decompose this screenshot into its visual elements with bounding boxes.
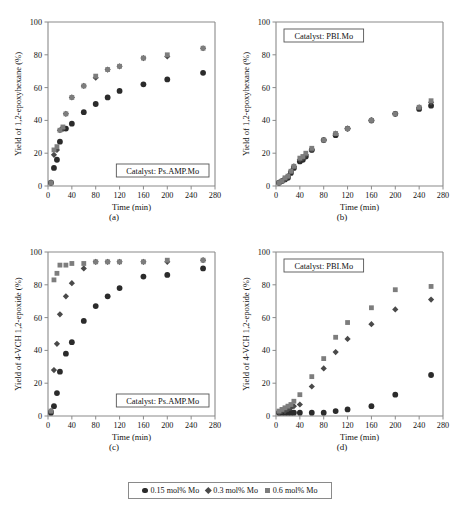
panel-label-c: (c) [0, 442, 228, 452]
svg-text:Time (min): Time (min) [340, 202, 379, 212]
data-point [117, 64, 122, 69]
data-point [333, 408, 339, 414]
chart-panel-a: 04080120160200240280020406080100Time (mi… [0, 0, 228, 230]
figure-legend: 0.15 mol% Mo 0.3 mol% Mo 0.6 mol% Mo [128, 482, 332, 499]
data-point [93, 74, 98, 79]
svg-text:Catalyst: Ps.AMP.Mo: Catalyst: Ps.AMP.Mo [126, 167, 199, 176]
svg-text:Yield of 1,2-epoxyhexane (%): Yield of 1,2-epoxyhexane (%) [13, 52, 23, 156]
svg-text:40: 40 [68, 421, 76, 430]
plot-svg-d: 04080120160200240280020406080100Time (mi… [228, 230, 456, 460]
chart-panel-c: 04080120160200240280020406080100Time (mi… [0, 230, 228, 460]
svg-text:100: 100 [30, 18, 42, 27]
svg-text:240: 240 [185, 421, 197, 430]
legend-label-2: 0.6 mol% Mo [273, 486, 318, 495]
legend-item-2: 0.6 mol% Mo [265, 486, 317, 495]
svg-text:240: 240 [185, 191, 197, 200]
data-point [201, 258, 206, 263]
data-point [369, 403, 375, 409]
data-point [141, 259, 146, 264]
series-diamond [48, 257, 206, 414]
data-point [63, 293, 69, 299]
legend-marker-square-icon [265, 488, 270, 493]
svg-text:20: 20 [262, 379, 270, 388]
data-point [164, 272, 170, 278]
series-diamond [276, 99, 434, 186]
legend-item-0: 0.15 mol% Mo [142, 486, 199, 495]
svg-text:280: 280 [209, 191, 221, 200]
data-point [297, 392, 302, 397]
data-point [309, 410, 315, 416]
svg-text:160: 160 [365, 191, 377, 200]
data-point [321, 410, 327, 416]
data-point [63, 351, 69, 357]
data-point [69, 95, 74, 100]
data-point [57, 311, 63, 317]
svg-text:280: 280 [437, 421, 449, 430]
data-point [200, 70, 206, 76]
plot-svg-c: 04080120160200240280020406080100Time (mi… [0, 230, 228, 460]
data-point [393, 287, 398, 292]
svg-text:0: 0 [266, 412, 270, 421]
data-point [165, 52, 170, 57]
legend-label-0: 0.15 mol% Mo [150, 486, 199, 495]
data-point [61, 125, 66, 130]
svg-text:40: 40 [262, 116, 270, 125]
data-point [117, 259, 122, 264]
svg-text:Time (min): Time (min) [112, 432, 151, 442]
svg-text:Time (min): Time (min) [112, 202, 151, 212]
svg-text:80: 80 [320, 191, 328, 200]
data-point [345, 126, 350, 131]
data-point [309, 146, 314, 151]
legend-label-1: 0.3 mol% Mo [213, 486, 258, 495]
svg-text:20: 20 [34, 149, 42, 158]
data-point [141, 274, 147, 280]
data-point [417, 105, 422, 110]
svg-text:0: 0 [46, 191, 50, 200]
data-point [93, 101, 99, 107]
svg-text:60: 60 [262, 314, 270, 323]
svg-text:160: 160 [365, 421, 377, 430]
data-point [369, 305, 374, 310]
data-point [392, 306, 398, 312]
data-point [141, 81, 147, 87]
svg-text:Yield of 1,2-epoxyhexane (%): Yield of 1,2-epoxyhexane (%) [241, 52, 251, 156]
series-circle [276, 103, 434, 186]
svg-text:100: 100 [258, 18, 270, 27]
data-point [345, 407, 351, 413]
svg-text:120: 120 [341, 421, 353, 430]
data-point [69, 121, 75, 127]
figure-container: 04080120160200240280020406080100Time (mi… [0, 0, 456, 515]
series-circle [48, 266, 206, 416]
svg-text:120: 120 [341, 191, 353, 200]
data-point [141, 56, 146, 61]
svg-text:20: 20 [262, 149, 270, 158]
data-point [57, 139, 63, 145]
data-point [429, 284, 434, 289]
data-point [345, 320, 350, 325]
svg-text:Time (min): Time (min) [340, 432, 379, 442]
data-point [333, 335, 338, 340]
svg-text:200: 200 [161, 421, 173, 430]
data-point [429, 98, 434, 103]
series-square [277, 98, 434, 185]
data-point [117, 285, 123, 291]
svg-text:60: 60 [34, 84, 42, 93]
data-point [81, 265, 87, 271]
data-point [428, 296, 434, 302]
data-point [58, 263, 63, 268]
svg-text:200: 200 [389, 421, 401, 430]
data-point [51, 367, 57, 373]
series-diamond [276, 296, 434, 415]
data-point [51, 165, 57, 171]
svg-text:240: 240 [413, 191, 425, 200]
svg-text:Catalyst: PBI.Mo: Catalyst: PBI.Mo [294, 32, 353, 41]
data-point [49, 409, 54, 414]
svg-text:100: 100 [30, 248, 42, 257]
data-point [165, 258, 170, 263]
data-point [54, 390, 60, 396]
data-point [291, 410, 297, 416]
chart-panel-d: 04080120160200240280020406080100Time (mi… [228, 230, 456, 460]
svg-text:40: 40 [34, 346, 42, 355]
data-point [81, 84, 86, 89]
svg-text:40: 40 [34, 116, 42, 125]
